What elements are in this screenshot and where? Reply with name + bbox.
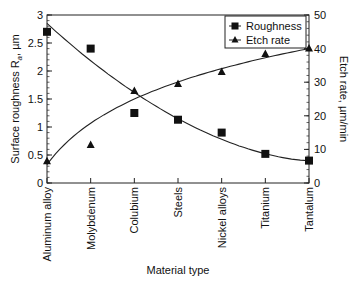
right-tick-label: 30 — [314, 76, 326, 88]
legend: RoughnessEtch rate — [225, 16, 306, 48]
roughness-point — [174, 116, 182, 124]
x-tick-label: Steels — [172, 187, 184, 218]
right-axis-label: Etch rate, µm/min — [338, 56, 350, 142]
right-tick-label: 40 — [314, 43, 326, 55]
right-tick-label: 20 — [314, 110, 326, 122]
etch-rate-point — [261, 49, 269, 57]
etch-rate-point — [87, 141, 95, 149]
roughness-point — [305, 157, 313, 165]
x-tick-label: Tantalum — [303, 187, 315, 232]
legend-roughness-label: Roughness — [246, 20, 302, 32]
roughness-point — [261, 150, 269, 158]
roughness-point — [43, 28, 51, 36]
left-axis-label: Surface roughness Ra, µm — [9, 34, 24, 163]
right-tick-label: 50 — [314, 9, 326, 21]
left-tick-label: 1.5 — [28, 93, 43, 105]
roughness-point — [218, 129, 226, 137]
etch-rate-point — [218, 68, 226, 76]
x-tick-label: Molybdenum — [85, 187, 97, 250]
legend-etch-label: Etch rate — [246, 34, 290, 46]
roughness-point — [130, 109, 138, 117]
left-tick-label: 0.5 — [28, 149, 43, 161]
x-tick-label: Titanium — [259, 187, 271, 229]
left-tick-label: 2.5 — [28, 37, 43, 49]
chart-container: 00.511.522.5301020304050Aluminum alloyMo… — [0, 0, 352, 283]
chart-svg: 00.511.522.5301020304050Aluminum alloyMo… — [0, 0, 352, 283]
left-tick-label: 2 — [37, 65, 43, 77]
square-marker-icon — [232, 23, 239, 30]
x-tick-label: Aluminum alloy — [41, 187, 53, 262]
x-tick-label: Nickel alloys — [216, 187, 228, 249]
etch-trend-line — [47, 49, 309, 165]
x-axis-label: Material type — [147, 264, 210, 276]
right-tick-label: 10 — [314, 143, 326, 155]
roughness-point — [87, 45, 95, 53]
x-tick-label: Colubium — [128, 187, 140, 233]
left-tick-label: 3 — [37, 9, 43, 21]
left-tick-label: 1 — [37, 121, 43, 133]
